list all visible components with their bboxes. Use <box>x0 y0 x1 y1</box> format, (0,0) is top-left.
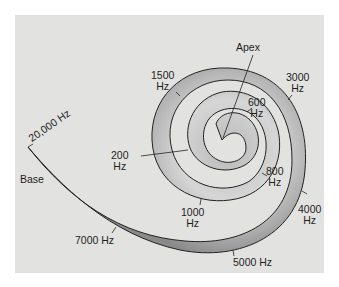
1000hz-tick <box>200 199 201 205</box>
freq-label-600hz: 600 Hz <box>248 97 266 119</box>
freq-label-1500hz: 1500 Hz <box>151 70 174 92</box>
apex-label: Apex <box>236 42 260 53</box>
freq-label-800hz: 800 Hz <box>266 166 284 188</box>
7000hz-tick <box>112 227 116 233</box>
base-label: Base <box>20 174 44 185</box>
freq-label-1000hz: 1000 Hz <box>181 207 204 229</box>
20000hz-tick <box>28 144 33 147</box>
freq-label-200hz: 200 Hz <box>111 150 129 172</box>
freq-label-5000hz: 5000 Hz <box>233 257 272 268</box>
4000hz-tick <box>302 191 307 194</box>
cochlea-spiral-diagram <box>0 0 339 287</box>
freq-label-4000hz: 4000 Hz <box>298 204 321 226</box>
freq-label-7000hz: 7000 Hz <box>75 235 114 246</box>
freq-label-3000hz: 3000 Hz <box>286 72 309 94</box>
